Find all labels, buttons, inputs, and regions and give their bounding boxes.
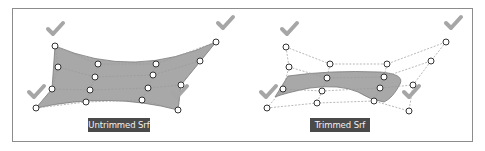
panel-trimmed [261, 17, 461, 114]
control-point [443, 39, 449, 45]
control-point [33, 105, 39, 111]
untrimmed-surface [36, 42, 216, 110]
checkmark-icon [218, 17, 233, 28]
control-point [381, 74, 387, 80]
control-point [197, 58, 203, 64]
control-point [410, 82, 416, 88]
control-point [145, 85, 151, 91]
control-point [52, 43, 58, 49]
control-point [384, 61, 390, 67]
control-point [153, 61, 159, 67]
control-point [175, 107, 181, 113]
control-point [371, 98, 377, 104]
control-point [139, 97, 145, 103]
control-point [178, 82, 184, 88]
checkmark-icon [446, 17, 461, 28]
control-point [324, 75, 330, 81]
untrimmed-label: Untrimmed Srf [88, 118, 150, 132]
control-point [327, 61, 333, 67]
control-point [280, 86, 286, 92]
control-point [92, 74, 98, 80]
trimmed-label: Trimmed Srf [310, 118, 370, 132]
checkmark-icon [48, 23, 63, 34]
control-point [49, 86, 55, 92]
surface-comparison-diagram [0, 0, 485, 151]
control-point [95, 61, 101, 67]
control-point [87, 87, 93, 93]
control-point [55, 64, 61, 70]
control-point [319, 88, 325, 94]
control-point [406, 108, 412, 114]
control-point [264, 105, 270, 111]
control-point [428, 58, 434, 64]
control-point [314, 100, 320, 106]
checkmark-icon [29, 86, 44, 97]
control-point [377, 85, 383, 91]
control-point [83, 99, 89, 105]
checkmark-icon [282, 23, 297, 34]
checkmark-icon [261, 86, 276, 97]
panel-untrimmed [29, 17, 233, 113]
control-point [286, 64, 292, 70]
control-point [213, 39, 219, 45]
control-point [283, 44, 289, 50]
control-point [150, 72, 156, 78]
